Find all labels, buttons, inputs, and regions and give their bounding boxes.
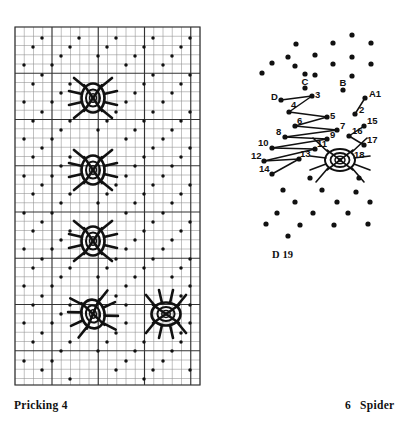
pin-label-6: 6 (297, 115, 302, 126)
pricking-panel (0, 0, 215, 392)
pin-label-4: 4 (291, 99, 297, 110)
pin-label-17: 17 (367, 134, 378, 145)
pin-label-9: 9 (330, 129, 335, 140)
spider-working-diagram: A1 B C D 2 3 4 5 6 7 8 9 10 11 12 13 14 … (250, 25, 406, 250)
pin-label-13: 13 (300, 148, 311, 159)
spider-caption: 6Spider (345, 399, 394, 411)
pin-label-16: 16 (352, 125, 363, 136)
pin-label-7: 7 (340, 120, 345, 131)
diagram-reference-letter: D (272, 249, 280, 260)
pin-label-8: 8 (276, 126, 281, 137)
pair-label-C: C (302, 76, 309, 87)
spider-caption-label: Spider (360, 399, 394, 411)
pinhole-dots (22, 36, 192, 381)
spider-motif (69, 78, 117, 118)
pin-label-15: 15 (367, 115, 378, 126)
spider-working-diagram-panel: A1 B C D 2 3 4 5 6 7 8 9 10 11 12 13 14 … (250, 25, 406, 250)
pin-label-3: 3 (315, 89, 320, 100)
pricking-grid (0, 0, 215, 392)
spider-caption-number: 6 (345, 399, 351, 411)
pin-label-11: 11 (317, 138, 328, 149)
pin-label-12: 12 (251, 150, 262, 161)
pair-label-B: B (340, 77, 347, 88)
pin-label-2: 2 (359, 104, 364, 115)
spider-motif (69, 221, 117, 261)
pair-label-A1: A1 (369, 88, 382, 99)
pin-label-5: 5 (330, 110, 336, 121)
pin-label-18: 18 (354, 149, 365, 160)
figure-page: A1 B C D 2 3 4 5 6 7 8 9 10 11 12 13 14 … (0, 0, 406, 427)
pin-label-14: 14 (259, 163, 270, 174)
diagram-reference-label: D19 (272, 249, 293, 260)
pricking-caption: Pricking 4 (14, 399, 68, 411)
pricking-spider-motifs (65, 78, 186, 339)
pin-label-10: 10 (258, 137, 269, 148)
diagram-reference-number: 19 (283, 249, 294, 260)
pair-label-D: D (271, 91, 278, 102)
